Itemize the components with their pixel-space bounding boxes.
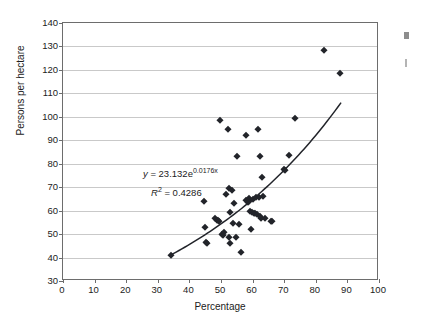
y-tick-label: 80 <box>18 157 58 168</box>
r-squared-equals: = <box>162 187 173 198</box>
cropped-edge-marks <box>404 32 422 78</box>
cropped-mark-lower <box>405 59 407 67</box>
x-tick-label: 50 <box>205 284 235 295</box>
x-axis-title: Percentage <box>62 301 378 312</box>
x-tick-label: 30 <box>142 284 172 295</box>
x-tick-label: 40 <box>173 284 203 295</box>
x-tick-label: 80 <box>300 284 330 295</box>
plot-area: y = 23.132e0.0176x R2 = 0.4286 <box>62 22 378 280</box>
y-axis-title: Persons per hectare <box>15 26 26 156</box>
equation-annotation: y = 23.132e0.0176x <box>143 167 218 179</box>
y-tick-label: 70 <box>18 181 58 192</box>
trendline <box>63 23 379 281</box>
r-squared-symbol: R <box>151 187 158 198</box>
x-tick-label: 0 <box>47 284 77 295</box>
y-tick-label: 60 <box>18 204 58 215</box>
y-tick <box>59 281 63 282</box>
y-tick-label: 40 <box>18 251 58 262</box>
r-squared-value: 0.4286 <box>173 187 202 198</box>
y-tick-label: 50 <box>18 228 58 239</box>
x-tick-label: 90 <box>331 284 361 295</box>
equation-coefficient: 23.132 <box>159 168 188 179</box>
x-tick-label: 100 <box>363 284 393 295</box>
chart-page: y = 23.132e0.0176x R2 = 0.4286 304050607… <box>0 0 422 325</box>
x-tick-label: 20 <box>110 284 140 295</box>
r-squared-annotation: R2 = 0.4286 <box>151 186 202 198</box>
equation-equals: = <box>148 168 159 179</box>
cropped-mark-upper <box>404 32 409 39</box>
equation-exponent: 0.0176x <box>193 167 218 174</box>
x-tick-label: 10 <box>79 284 109 295</box>
x-tick-label: 60 <box>237 284 267 295</box>
x-tick-label: 70 <box>268 284 298 295</box>
x-tick <box>379 279 380 283</box>
